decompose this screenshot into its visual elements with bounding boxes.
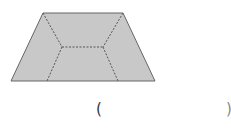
trapezoid-figure — [0, 0, 231, 100]
answer-close-paren: ) — [226, 102, 231, 117]
answer-open-paren: ( — [96, 102, 102, 117]
